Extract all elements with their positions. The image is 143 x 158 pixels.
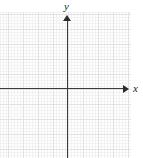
coordinate-plane-figure: x y bbox=[0, 0, 143, 158]
x-axis-line bbox=[0, 88, 124, 89]
y-axis-arrow-icon bbox=[63, 15, 71, 21]
y-axis-line bbox=[67, 21, 68, 158]
x-axis-arrow-icon bbox=[123, 85, 129, 93]
x-axis-label: x bbox=[133, 83, 138, 94]
grid-background bbox=[0, 12, 131, 158]
y-axis-label: y bbox=[64, 1, 69, 12]
